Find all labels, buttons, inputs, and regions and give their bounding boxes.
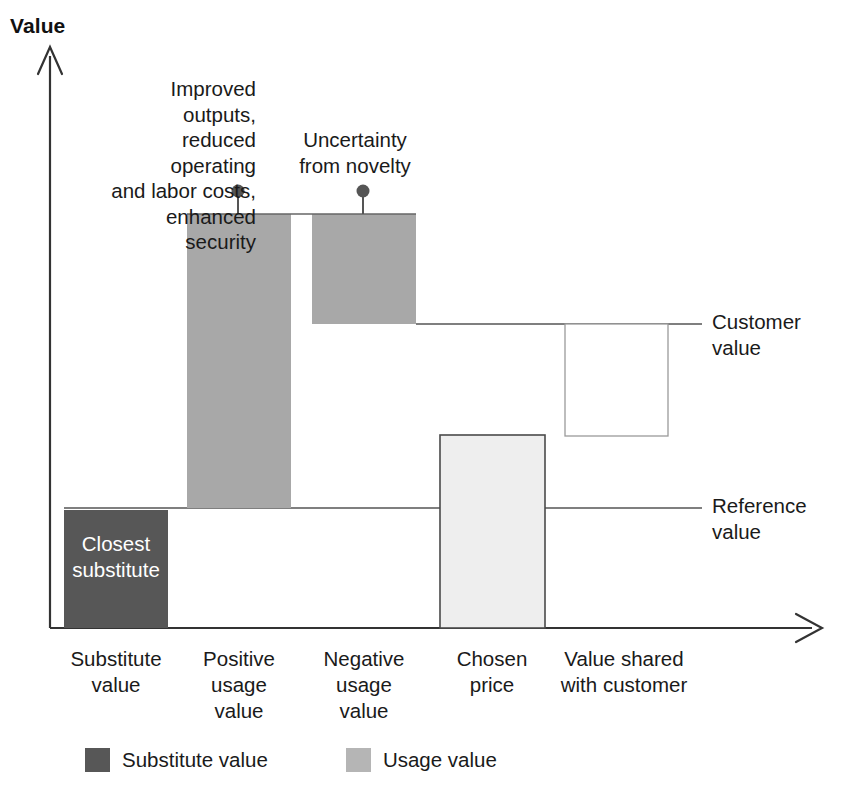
- legend-label-usage-value: Usage value: [383, 748, 497, 772]
- bar-label-closest-substitute: Closest substitute: [64, 531, 168, 582]
- annotation-negative-usage-value: Uncertainty from novelty: [272, 127, 438, 178]
- chart-legend: Substitute value Usage value: [85, 748, 497, 772]
- legend-label-substitute-value: Substitute value: [122, 748, 268, 772]
- legend-item-usage-value: Usage value: [346, 748, 497, 772]
- bar-negative-usage-value: [312, 214, 416, 324]
- bar-positive-usage-value: [187, 214, 291, 508]
- y-axis: [38, 47, 62, 628]
- category-label-negative-usage-value: Negative usage value: [289, 646, 439, 724]
- reference-label-customer-value: Customer value: [712, 309, 801, 360]
- waterfall-chart-figure: Value: [0, 0, 841, 808]
- bar-value-shared-with-customer: [565, 324, 668, 436]
- bar-chosen-price: [440, 435, 545, 628]
- legend-swatch-substitute-value: [85, 748, 110, 772]
- annotation-positive-usage-value: Improved outputs, reduced operating and …: [98, 76, 256, 255]
- category-label-value-shared-with-customer: Value shared with customer: [529, 646, 719, 698]
- legend-item-substitute-value: Substitute value: [85, 748, 268, 772]
- annotation-pin-negative-usage: [357, 185, 370, 215]
- reference-label-reference-value: Reference value: [712, 493, 807, 544]
- legend-swatch-usage-value: [346, 748, 371, 772]
